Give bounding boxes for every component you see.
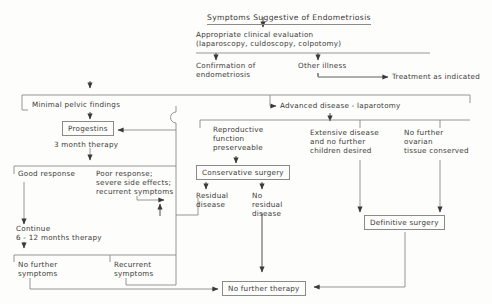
node-continue-therapy: Continue 6 - 12 months therapy: [16, 224, 102, 242]
node-extensive-disease: Extensive disease and no further childre…: [310, 128, 379, 156]
flowchart-diagram: Symptoms Suggestive of Endometriosis App…: [0, 0, 492, 304]
node-good-response: Good response: [18, 169, 75, 178]
node-definitive-surgery: Definitive surgery: [364, 215, 445, 230]
node-confirmation: Confirmation of endometriosis: [196, 61, 255, 79]
node-other-illness: Other illness: [298, 61, 346, 70]
node-title-text: Symptoms Suggestive of Endometriosis: [207, 13, 371, 25]
node-reproductive-function: Reproductive function preserveable: [213, 125, 263, 153]
node-no-residual-disease: No residual disease: [252, 191, 282, 219]
node-progestins: Progestins: [62, 121, 114, 136]
node-minimal-pelvic-findings: Minimal pelvic findings: [32, 100, 120, 109]
node-no-further-therapy: No further therapy: [222, 281, 306, 296]
node-no-further-symptoms: No further symptoms: [18, 260, 58, 278]
node-three-month-therapy: 3 month therapy: [54, 140, 118, 149]
node-advanced-disease: Advanced disease - laparotomy: [280, 101, 401, 110]
node-poor-response: Poor response; severe side effects; recu…: [96, 169, 173, 197]
node-no-further-ovarian: No further ovarian tissue conserved: [404, 128, 469, 156]
node-recurrent-symptoms: Recurrent symptoms: [114, 260, 154, 278]
node-conservative-surgery: Conservative surgery: [196, 165, 290, 180]
node-evaluation: Appropriate clinical evaluation (laparos…: [196, 30, 341, 48]
node-treatment-as-indicated: Treatment as indicated: [392, 72, 480, 81]
node-residual-disease: Residual disease: [196, 191, 228, 209]
